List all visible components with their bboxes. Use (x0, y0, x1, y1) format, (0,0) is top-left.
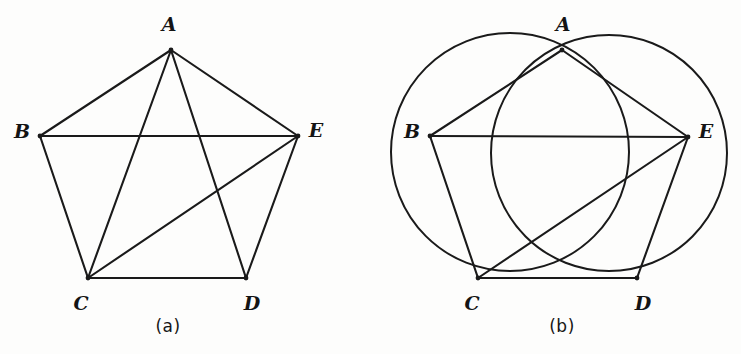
side-ab (430, 50, 562, 136)
vertex-point-e (296, 134, 301, 139)
diagonal-ac (88, 50, 171, 278)
vertex-point-e (686, 135, 691, 140)
edges-layer (40, 50, 688, 278)
vertex-label-e: E (699, 122, 713, 141)
vertex-point-d (635, 276, 640, 281)
vertex-point-a (560, 48, 565, 53)
vertex-label-d: D (244, 294, 260, 313)
vertex-point-c (476, 276, 481, 281)
vertex-label-d: D (635, 294, 651, 313)
caption-panel-a: (a) (155, 316, 180, 336)
vertex-point-b (38, 134, 43, 139)
diagonal-ad (171, 50, 246, 278)
caption-panel-b: (b) (549, 316, 575, 336)
vertex-label-e: E (309, 121, 323, 140)
diagonal-be (430, 136, 688, 137)
vertex-point-a (169, 48, 174, 53)
side-ab (40, 50, 171, 136)
vertex-label-c: C (464, 294, 479, 313)
side-de (246, 136, 298, 278)
diagonal-ce (478, 137, 688, 278)
side-bc (40, 136, 88, 278)
figure-canvas (0, 0, 741, 354)
circles-layer (391, 33, 727, 271)
vertex-label-b: B (404, 122, 420, 141)
side-ea (171, 50, 298, 136)
vertex-label-a: A (556, 15, 571, 34)
side-de (637, 137, 688, 278)
vertex-label-b: B (14, 122, 30, 141)
vertex-point-c (86, 276, 91, 281)
vertex-point-d (244, 276, 249, 281)
circle-abc (391, 33, 629, 271)
vertex-label-a: A (162, 15, 177, 34)
vertex-point-b (428, 134, 433, 139)
geometry-figure: ABCDEABCDE (a)(b) (0, 0, 741, 354)
diagonal-ce (88, 136, 298, 278)
vertex-label-c: C (73, 294, 88, 313)
circle-ade (491, 35, 727, 271)
